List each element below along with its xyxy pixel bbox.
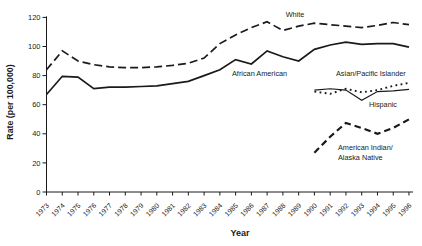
series-label-african-american: African American: [232, 69, 287, 78]
series-line-white: [47, 22, 410, 70]
x-tick-label: 1978: [113, 202, 129, 218]
x-tick-label: 1991: [318, 202, 334, 218]
y-tick-label: 40: [32, 129, 40, 138]
x-tick-label: 1989: [286, 202, 302, 218]
x-tick-label: 1982: [176, 202, 192, 218]
y-tick-label: 80: [32, 71, 40, 80]
x-tick-label: 1975: [66, 202, 82, 218]
y-tick-label: 120: [28, 13, 41, 22]
line-chart-canvas: 0204060801001201973197419751976197719781…: [0, 0, 422, 246]
x-tick-label: 1976: [82, 202, 98, 218]
x-tick-label: 1995: [381, 202, 397, 218]
x-tick-label: 1987: [255, 202, 271, 218]
series-label-american-indian-alaska-native: American Indian/: [338, 143, 394, 152]
y-tick-label: 0: [36, 188, 40, 197]
x-tick-label: 1990: [302, 202, 318, 218]
x-tick-label: 1979: [129, 202, 145, 218]
y-tick-label: 60: [32, 100, 40, 109]
x-tick-label: 1974: [50, 202, 66, 218]
y-axis-title: Rate (per 100,000): [5, 64, 15, 139]
x-tick-label: 1983: [192, 202, 208, 218]
series-label-hispanic: Hispanic: [369, 100, 397, 109]
x-tick-label: 1986: [239, 202, 255, 218]
y-tick-label: 100: [28, 42, 41, 51]
x-tick-label: 1984: [208, 202, 224, 218]
x-tick-label: 1994: [365, 202, 381, 218]
x-tick-label: 1988: [271, 202, 287, 218]
x-tick-label: 1980: [145, 202, 161, 218]
x-tick-label: 1981: [160, 202, 176, 218]
x-tick-label: 1973: [34, 202, 50, 218]
x-axis-title: Year: [230, 228, 250, 238]
chart-figure: 0204060801001201973197419751976197719781…: [0, 0, 422, 246]
series-label-american-indian-alaska-native: Alaska Native: [338, 153, 383, 162]
y-tick-label: 20: [32, 159, 40, 168]
x-tick-label: 1996: [397, 202, 413, 218]
series-label-asian-pacific-islander: Asian/Pacific Islander: [336, 69, 406, 78]
x-tick-label: 1977: [97, 202, 113, 218]
x-tick-label: 1993: [349, 202, 365, 218]
x-tick-label: 1992: [334, 202, 350, 218]
x-tick-label: 1985: [223, 202, 239, 218]
series-label-white: White: [286, 10, 305, 19]
